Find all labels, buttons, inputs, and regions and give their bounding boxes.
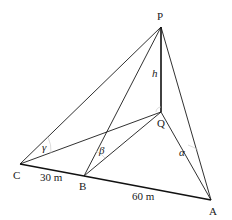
edge-qc — [20, 112, 161, 164]
label-angle-beta: β — [98, 144, 105, 156]
angle-arc-gamma — [48, 137, 51, 153]
label-angle-gamma: γ — [42, 141, 47, 153]
label-a: A — [209, 205, 217, 217]
label-distance-ba: 60 m — [132, 190, 155, 202]
label-distance-cb: 30 m — [40, 171, 63, 183]
angle-arc-alpha — [188, 145, 198, 150]
label-c: C — [13, 169, 20, 181]
edge-pb — [84, 27, 161, 176]
label-angle-alpha: α — [179, 146, 185, 158]
label-b: B — [79, 180, 86, 192]
tower-elevation-diagram: P Q C B A h 30 m 60 m γ β α — [0, 0, 232, 220]
edge-qa — [161, 112, 211, 200]
label-height-h: h — [152, 67, 158, 79]
edge-pa — [161, 27, 211, 200]
label-p: P — [157, 10, 163, 22]
edge-qb — [84, 112, 161, 176]
label-q: Q — [157, 117, 165, 129]
